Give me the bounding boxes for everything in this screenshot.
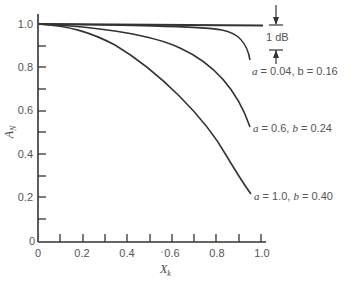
y-tick-label: 0.8 <box>18 61 33 73</box>
x-tick-label: 0.2 <box>74 247 89 259</box>
x-tick-label: 0.4 <box>119 247 134 259</box>
curve-label-a10: a = 1.0, b = 0.40 <box>254 190 333 202</box>
db-marker-label: 1 dB <box>266 31 289 43</box>
x-tick-label: 0 <box>35 247 41 259</box>
curve-a06-b024 <box>38 24 250 127</box>
x-tick-label: 0.8 <box>209 247 224 259</box>
curve-a10-b040 <box>38 24 251 194</box>
y-axis-ticks <box>38 24 46 219</box>
y-axis-title: AN <box>2 125 18 139</box>
x-tick-labels: 0 0.2 0.4 0.6 0.8 1.0 <box>35 247 270 259</box>
y-tick-label: 0 <box>29 235 35 247</box>
x-tick-label: 0.6 <box>164 247 179 259</box>
curve-label-a06: a = 0.6, b = 0.24 <box>253 122 332 134</box>
y-tick-labels: 1.0 0.8 0.6 0.4 0.2 0 <box>18 18 35 247</box>
y-tick-label: 1.0 <box>18 18 33 30</box>
x-axis-ticks <box>60 234 261 242</box>
y-tick-label: 0.6 <box>18 104 33 116</box>
speck <box>161 251 162 252</box>
chart: 1.0 0.8 0.6 0.4 0.2 0 0 0.2 0.4 0.6 0.8 … <box>0 0 358 281</box>
y-tick-label: 0.2 <box>18 191 33 203</box>
svg-text:AN: AN <box>2 125 18 139</box>
y-tick-label: 0.4 <box>18 148 33 160</box>
x-axis-title: Xk <box>159 262 171 278</box>
curve-label-a004: a = 0.04, b = 0.16 <box>252 65 338 77</box>
x-tick-label: 1.0 <box>254 247 269 259</box>
curve-a004-b016 <box>38 24 250 60</box>
